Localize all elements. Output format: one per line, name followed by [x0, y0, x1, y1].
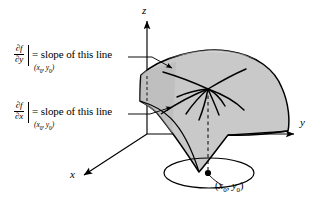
y-axis-label: y	[300, 116, 305, 128]
partial-y-equation-text: = slope of this line	[32, 44, 112, 60]
partial-x-denominator: ∂x	[14, 112, 24, 121]
partial-y-numerator: ∂f	[14, 44, 24, 53]
partial-x-fraction: ∂f ∂x (x0, y0)	[14, 101, 27, 121]
partial-x-numerator: ∂f	[14, 101, 24, 110]
point-marker-dot	[205, 170, 211, 176]
partial-derivative-y-label: ∂f ∂y (x0, y0) = slope of this line	[14, 44, 112, 66]
partial-x-equation-text: = slope of this line	[32, 101, 112, 117]
partial-y-denominator: ∂y	[14, 55, 24, 64]
x-axis	[84, 134, 147, 175]
z-axis-label: z	[142, 4, 146, 16]
partial-y-evaluation-subscript: (x0, y0)	[34, 64, 54, 74]
figure-canvas: ∂f ∂y (x0, y0) = slope of this line ∂f ∂…	[0, 0, 327, 208]
evaluation-bar	[28, 45, 29, 66]
partial-x-evaluation-subscript: (x0, y0)	[34, 121, 54, 131]
partial-derivative-x-label: ∂f ∂x (x0, y0) = slope of this line	[14, 101, 112, 123]
point-coordinate-label: (x0, y0)	[215, 180, 244, 194]
partial-y-fraction: ∂f ∂y (x0, y0)	[14, 44, 27, 64]
evaluation-bar	[28, 102, 29, 123]
x-axis-label: x	[70, 168, 75, 180]
